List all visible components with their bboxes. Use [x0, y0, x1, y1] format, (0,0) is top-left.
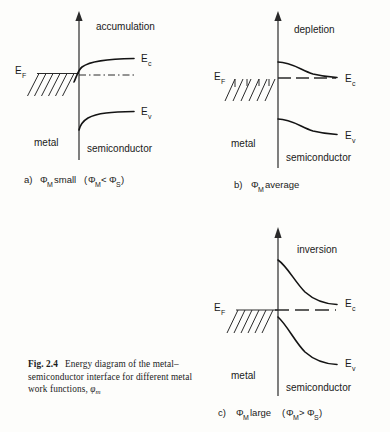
fermi-label-c: E F	[214, 302, 225, 316]
regime-label-c: inversion	[297, 244, 337, 255]
svg-text:a): a)	[24, 174, 32, 185]
figure-caption: Fig. 2.4Energy diagram of the metal–semi…	[28, 358, 193, 399]
svg-text:E: E	[141, 53, 148, 64]
fermi-label-a: E F	[15, 65, 26, 79]
panel-c-diagram: inversion E F E c	[195, 216, 390, 426]
svg-text:large: large	[250, 407, 271, 418]
svg-text:small: small	[54, 174, 76, 185]
interface-axis-c	[274, 227, 281, 396]
svg-text:F: F	[221, 309, 225, 316]
svg-text:E: E	[214, 71, 221, 82]
svg-text:>: >	[299, 407, 305, 418]
fermi-label-b: E F	[214, 71, 225, 85]
svg-text:average: average	[265, 179, 299, 190]
svg-text:F: F	[22, 72, 26, 79]
svg-text:c: c	[352, 80, 356, 87]
metal-hatching-a	[28, 74, 75, 97]
material-right-c: semiconductor	[286, 382, 352, 393]
panel-c-inversion: inversion E F E c	[195, 216, 390, 426]
svg-text:E: E	[345, 298, 352, 309]
material-left-a: metal	[34, 137, 58, 148]
svg-text:F: F	[221, 78, 225, 85]
metal-hatching-b	[225, 79, 275, 101]
svg-text:v: v	[352, 365, 356, 372]
valence-band-a	[79, 112, 134, 131]
material-right-b: semiconductor	[286, 152, 352, 163]
valence-label-a: E v	[141, 106, 152, 120]
regime-label-a: accumulation	[96, 21, 155, 32]
svg-text:v: v	[352, 137, 356, 144]
panel-caption-b: b) Φ M average	[234, 179, 299, 193]
svg-text:M: M	[258, 186, 264, 193]
svg-text:E: E	[345, 73, 352, 84]
svg-text:c): c)	[218, 407, 226, 418]
conduction-band-b	[278, 62, 337, 78]
material-left-b: metal	[231, 138, 255, 149]
figure-page: accumulation E F	[0, 0, 390, 432]
material-left-c: metal	[231, 370, 255, 381]
svg-text:c: c	[148, 60, 152, 67]
svg-text:E: E	[214, 302, 221, 313]
svg-text:): )	[319, 407, 322, 418]
panel-b-depletion: depletion E F	[195, 0, 390, 200]
conduction-band-c	[278, 260, 337, 305]
svg-text:b): b)	[234, 179, 242, 190]
panel-a-accumulation: accumulation E F	[0, 0, 195, 200]
interface-axis-b	[274, 11, 281, 168]
material-right-a: semiconductor	[87, 143, 153, 154]
svg-text:M: M	[243, 414, 249, 421]
valence-band-c	[278, 317, 337, 365]
svg-text:E: E	[345, 130, 352, 141]
valence-band-b	[278, 119, 337, 135]
valence-label-c: E v	[345, 358, 356, 372]
panel-caption-c: c) Φ M large ( Φ M > Φ S )	[218, 407, 322, 421]
interface-axis-a	[75, 11, 82, 160]
conduction-label-a: E c	[141, 53, 152, 67]
conduction-label-b: E c	[345, 73, 356, 87]
conduction-band-a	[74, 59, 134, 83]
conduction-label-c: E c	[345, 298, 356, 312]
caption-line-1: Energy diagram of the	[65, 359, 150, 369]
svg-text:<: <	[101, 174, 107, 185]
svg-text:E: E	[15, 65, 22, 76]
svg-text:E: E	[141, 106, 148, 117]
panel-b-diagram: depletion E F	[195, 0, 390, 200]
caption-phi-subscript: m	[96, 388, 101, 396]
svg-text:c: c	[352, 305, 356, 312]
svg-text:E: E	[345, 358, 352, 369]
svg-text:): )	[121, 174, 124, 185]
panel-a-diagram: accumulation E F	[0, 0, 195, 200]
caption-figure-number: Fig. 2.4	[28, 359, 58, 369]
metal-hatching-c	[227, 310, 273, 333]
svg-text:v: v	[148, 113, 152, 120]
regime-label-b: depletion	[294, 24, 335, 35]
svg-text:M: M	[47, 181, 53, 188]
panel-caption-a: a) Φ M small ( Φ M < Φ S )	[24, 174, 124, 188]
valence-label-b: E v	[345, 130, 356, 144]
